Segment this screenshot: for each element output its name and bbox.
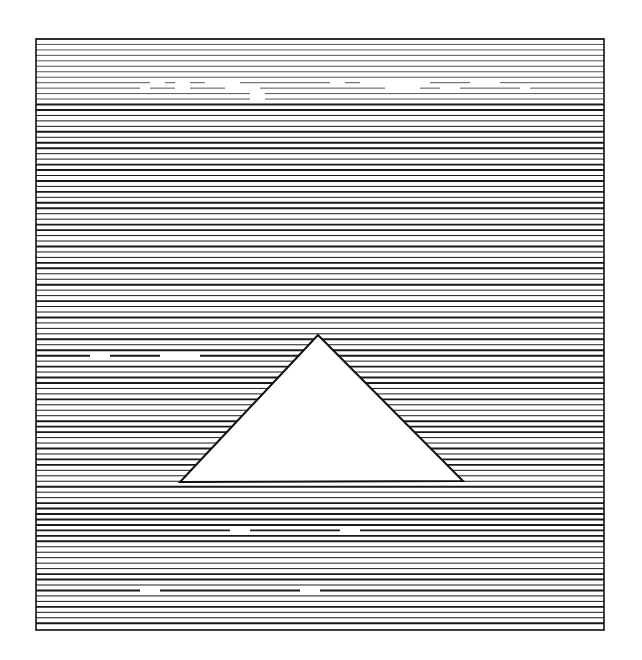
line-field-figure — [0, 0, 642, 660]
